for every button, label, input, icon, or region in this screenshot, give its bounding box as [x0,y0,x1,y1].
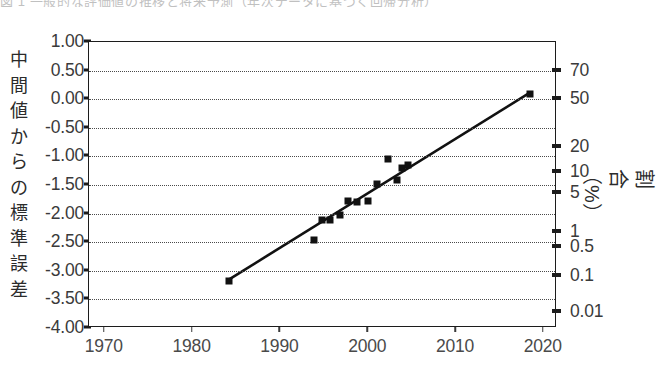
y-axis-right-tick-mark [552,68,561,72]
gridline-horizontal [89,271,555,272]
y-axis-right-tick-label: 20 [570,136,589,157]
x-axis-tick-mark [279,327,281,332]
y-axis-right-title: 割合（%） [604,140,632,218]
data-point [326,216,333,223]
y-axis-left-tick-label: -2.50 [45,231,84,252]
data-point [353,199,360,206]
data-point [526,91,533,98]
data-point [394,177,401,184]
y-axis-right-tick-label: 0.5 [570,235,594,256]
data-point [345,198,352,205]
x-axis-tick-label: 1990 [260,336,298,357]
data-point [404,161,411,168]
y-axis-left-tick-label: -1.00 [45,145,84,166]
data-point [374,180,381,187]
data-point [337,211,344,218]
y-axis-left-tick-label: 0.50 [51,59,84,80]
caption-fragment: 図 1 一般的な評価値の推移と将来予測（年次データに基づく回帰分析） [0,0,643,7]
x-axis-tick-label: 2010 [436,336,474,357]
y-axis-right-tick-label: 0.01 [570,300,603,321]
y-axis-left-ticks: 1.000.500.00-0.50-1.00-1.50-2.00-2.50-3.… [0,41,84,327]
gridline-horizontal [89,185,555,186]
gridline-horizontal [89,99,555,100]
x-axis-tick-mark [191,327,193,332]
gridline-horizontal [89,128,555,129]
y-axis-right-tick-mark [552,144,561,148]
gridline-horizontal [89,71,555,72]
x-axis-tick-label: 2000 [348,336,386,357]
y-axis-right-tick-mark [552,244,561,248]
y-axis-left-tick-label: 0.00 [51,88,84,109]
y-axis-right-tick-mark [552,229,561,233]
y-axis-right-tick-mark [552,190,561,194]
x-axis-tick-mark [542,327,544,332]
y-axis-right-tick-label: 70 [570,59,589,80]
y-axis-left-tick-label: -0.50 [45,116,84,137]
plot-frame [88,41,556,327]
y-axis-left-tick-label: -2.00 [45,202,84,223]
y-axis-right-tick-mark [552,96,561,100]
y-axis-right-tick-label: 0.1 [570,264,594,285]
data-point [225,278,232,285]
y-axis-left-tick-label: -1.50 [45,174,84,195]
x-axis-tick-mark [103,327,105,332]
x-axis-tick-label: 1980 [173,336,211,357]
gridline-horizontal [89,214,555,215]
x-axis-ticks: 197019801990200020102020 [88,330,556,360]
y-axis-right-tick-mark [552,309,561,313]
gridline-horizontal [89,242,555,243]
y-axis-left-tick-label: -3.00 [45,259,84,280]
gridline-horizontal [89,156,555,157]
gridline-horizontal [89,299,555,300]
trend-line [89,42,555,326]
y-axis-right-tick-mark [552,169,561,173]
plot-area [89,42,555,326]
x-axis-tick-label: 2020 [524,336,562,357]
y-axis-left-tick-label: 1.00 [51,31,84,52]
data-point [365,198,372,205]
y-axis-right-title-text: 割合（%） [579,165,657,193]
data-point [318,216,325,223]
y-axis-left-tick-label: -3.50 [45,288,84,309]
x-axis-tick-label: 1970 [85,336,123,357]
y-axis-right-tick-label: 50 [570,88,589,109]
x-axis-tick-mark [454,327,456,332]
y-axis-right-tick-mark [552,273,561,277]
data-point [384,156,391,163]
x-axis-tick-mark [366,327,368,332]
data-point [310,236,317,243]
y-axis-left-tick-label: -4.00 [45,317,84,338]
